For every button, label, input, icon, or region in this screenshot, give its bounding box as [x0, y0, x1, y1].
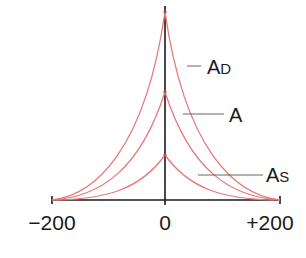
series-label-a: A [229, 104, 243, 126]
series-label-as: AS [266, 164, 289, 186]
curve-a [52, 92, 280, 200]
peak-a-marker [163, 90, 166, 93]
x-tick-label-pos200: +200 [246, 211, 293, 234]
chart-plot-area: AD A AS −200 0 +200 [0, 0, 306, 258]
series-label-ad: AD [207, 56, 231, 78]
peak-ad-marker [163, 10, 166, 13]
x-tick-label-0: 0 [159, 211, 171, 234]
curve-ad [52, 12, 280, 200]
peak-as-marker [163, 153, 166, 156]
x-tick-label-neg200: −200 [28, 211, 75, 234]
